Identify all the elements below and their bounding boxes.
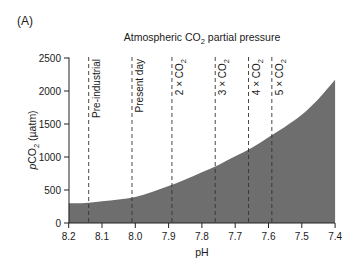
y-tick-label: 0 [55,218,61,229]
chart-title: Atmospheric CO2 partial pressure [124,31,281,46]
x-tick-label: 8.0 [128,231,142,242]
y-axis: 05001000150020002500 [39,53,69,229]
panel-label: (A) [17,14,33,28]
pco2-area [69,80,335,223]
reference-line-label: 4 × CO2 [251,59,265,95]
reference-line-label: Present day [134,59,145,112]
x-tick-label: 7.8 [195,231,209,242]
x-axis: 8.28.18.07.97.87.77.67.57.4 [62,223,343,242]
y-tick-label: 1000 [39,152,62,163]
reference-line-label: 5 × CO2 [274,59,288,95]
reference-line-label: Pre-industrial [91,59,102,118]
x-tick-label: 7.5 [295,231,309,242]
reference-line-label: 3 × CO2 [217,59,231,95]
y-tick-label: 500 [44,185,61,196]
y-tick-label: 2500 [39,53,62,64]
x-tick-label: 7.4 [328,231,342,242]
x-axis-label: pH [195,246,208,258]
x-tick-label: 8.1 [95,231,109,242]
x-tick-label: 7.9 [162,231,176,242]
y-tick-label: 1500 [39,119,62,130]
co2-ph-chart: (A) Atmospheric CO2 partial pressure Pre… [0,0,354,269]
x-tick-label: 7.7 [228,231,242,242]
y-tick-label: 2000 [39,86,62,97]
x-tick-label: 7.6 [262,231,276,242]
plot-area: Pre-industrialPresent day2 × CO23 × CO24… [69,57,335,223]
x-tick-label: 8.2 [62,231,76,242]
reference-line-label: 2 × CO2 [174,59,188,95]
